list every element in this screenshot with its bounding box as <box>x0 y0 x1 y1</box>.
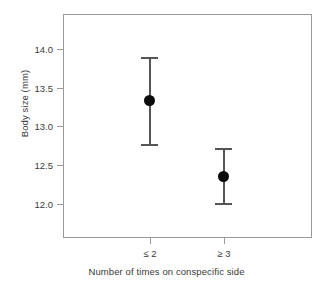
y-axis-tick-label: 12.0 <box>0 199 53 210</box>
x-axis-tick <box>150 238 151 244</box>
x-axis-title: Number of times on conspecific side <box>0 266 333 277</box>
figure-canvas: Body size (mm) Number of times on conspe… <box>0 0 333 286</box>
y-axis-tick <box>57 204 63 205</box>
error-bar-cap-upper <box>215 148 232 150</box>
x-axis-tick-label: ≤ 2 <box>115 248 185 259</box>
y-axis-tick <box>57 126 63 127</box>
y-axis-tick-label: 13.5 <box>0 83 53 94</box>
data-marker <box>144 95 155 106</box>
y-axis-tick <box>57 49 63 50</box>
y-axis-tick-label: 12.5 <box>0 160 53 171</box>
y-axis-tick-label: 14.0 <box>0 44 53 55</box>
y-axis-tick <box>57 88 63 89</box>
y-axis-tick-label: 13.0 <box>0 121 53 132</box>
error-bar-cap-lower <box>215 203 232 205</box>
x-axis-tick-label: ≥ 3 <box>189 248 259 259</box>
data-marker <box>218 171 229 182</box>
y-axis-tick <box>57 165 63 166</box>
x-axis-tick <box>224 238 225 244</box>
error-bar-cap-lower <box>141 144 158 146</box>
plot-frame <box>63 14 312 238</box>
error-bar-cap-upper <box>141 57 158 59</box>
